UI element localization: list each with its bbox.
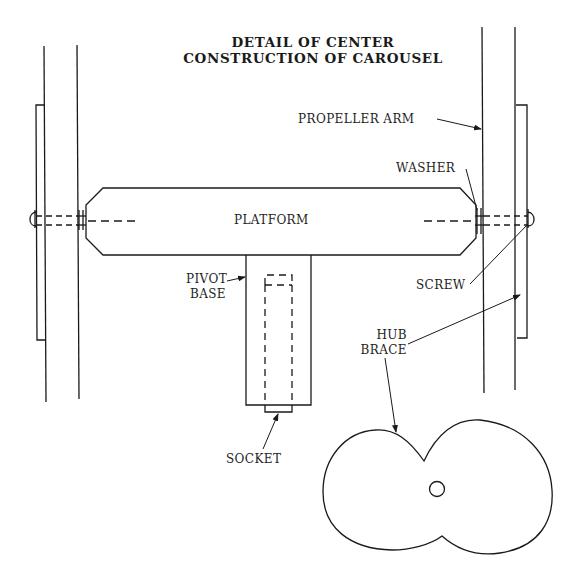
- socket-bottom: [265, 405, 292, 412]
- pivot-base: [246, 255, 311, 405]
- socket: [265, 275, 292, 405]
- label-base: BASE: [186, 287, 226, 302]
- leader-hub-brace-shape: [385, 358, 396, 432]
- left-screw: [30, 210, 78, 228]
- leader-screw: [470, 225, 527, 284]
- hub-brace-shape: [323, 420, 552, 554]
- right-hub-brace: [516, 105, 527, 338]
- left-propeller-arm: [44, 45, 79, 402]
- label-socket: SOCKET: [226, 452, 281, 467]
- carousel-construction-drawing: [0, 0, 570, 577]
- leader-washer: [466, 169, 477, 210]
- left-washer: [77, 210, 86, 230]
- leader-pivot-base: [227, 277, 245, 281]
- label-pivot: PIVOT: [186, 272, 226, 287]
- label-hub: HUB: [366, 328, 407, 343]
- label-platform: PLATFORM: [234, 213, 309, 228]
- hub-brace-center-hole: [430, 482, 445, 497]
- leader-propeller-arm: [437, 119, 481, 129]
- diagram-title-line-2: CONSTRUCTION OF CAROUSEL: [28, 50, 570, 66]
- label-screw: SCREW: [416, 278, 466, 293]
- leader-socket: [263, 414, 278, 449]
- label-brace: BRACE: [350, 343, 407, 358]
- leader-hub-brace-right: [408, 295, 520, 344]
- diagram-title-line-1: DETAIL OF CENTER: [28, 34, 570, 50]
- diagram-canvas: [0, 0, 570, 577]
- label-propeller-arm: PROPELLER ARM: [298, 112, 415, 127]
- label-washer: WASHER: [396, 161, 455, 176]
- right-propeller-arm: [482, 27, 515, 393]
